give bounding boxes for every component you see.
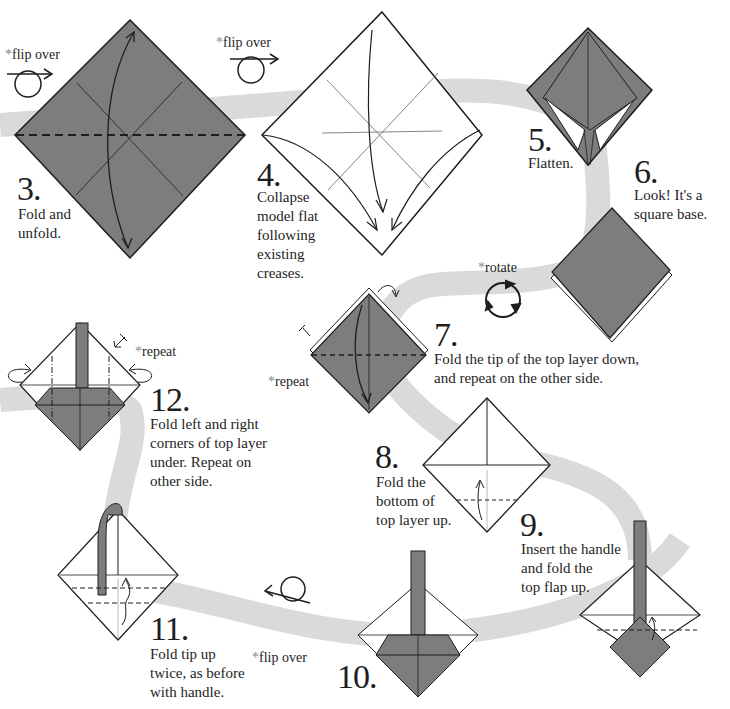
flip-over-icon bbox=[7, 69, 52, 97]
flip-over-note: *flip over bbox=[216, 35, 271, 51]
step-text-line: Look! It's a bbox=[634, 186, 707, 205]
asterisk: * bbox=[216, 35, 223, 50]
step-11-text: Fold tip up twice, as before with handle… bbox=[150, 645, 245, 702]
step-6-model bbox=[551, 208, 672, 342]
step-10-number: 10. bbox=[337, 660, 377, 694]
step-7-text: Fold the tip of the top layer down, and … bbox=[434, 350, 639, 388]
flip-over-note: *flip over bbox=[5, 47, 60, 63]
step-text-line: twice, as before bbox=[150, 664, 245, 683]
step-text-line: top flap up. bbox=[521, 578, 621, 597]
flip-over-label: flip over bbox=[259, 650, 307, 665]
repeat-note: *repeat bbox=[268, 374, 309, 390]
asterisk: * bbox=[268, 374, 275, 389]
rotate-label: rotate bbox=[485, 260, 517, 275]
step-text-line: following bbox=[257, 226, 318, 245]
flip-over-icon bbox=[230, 54, 278, 83]
step-6-number: 6. bbox=[634, 155, 658, 189]
step-text-line: under. Repeat on bbox=[150, 453, 267, 472]
asterisk: * bbox=[252, 650, 259, 665]
repeat-note: *repeat bbox=[135, 344, 176, 360]
flip-over-icon bbox=[265, 577, 310, 603]
step-text-line: top layer up. bbox=[376, 511, 451, 530]
step-text-line: corners of top layer bbox=[150, 434, 267, 453]
step-text-line: model flat bbox=[257, 207, 318, 226]
asterisk: * bbox=[478, 260, 485, 275]
step-text-line: existing bbox=[257, 245, 318, 264]
step-text-line: Collapse bbox=[257, 188, 318, 207]
asterisk: * bbox=[135, 344, 142, 359]
step-4-text: Collapse model flat following existing c… bbox=[257, 188, 318, 283]
step-8-text: Fold the bottom of top layer up. bbox=[376, 473, 451, 530]
flip-over-label: flip over bbox=[223, 35, 271, 50]
step-text-line: Fold left and right bbox=[150, 415, 267, 434]
step-9-number: 9. bbox=[520, 508, 544, 542]
repeat-label: repeat bbox=[142, 344, 176, 359]
step-3-text: Fold and unfold. bbox=[18, 205, 71, 243]
flip-over-note: *flip over bbox=[252, 650, 307, 666]
step-4-number: 4. bbox=[257, 158, 281, 192]
step-text-line: and repeat on the other side. bbox=[434, 369, 639, 388]
step-text-line: with handle. bbox=[150, 683, 245, 702]
step-text-line: unfold. bbox=[18, 224, 71, 243]
step-text-line: square base. bbox=[634, 205, 707, 224]
step-3-number: 3. bbox=[17, 172, 41, 206]
step-5-number: 5. bbox=[528, 123, 552, 157]
repeat-label: repeat bbox=[275, 374, 309, 389]
step-6-text: Look! It's a square base. bbox=[634, 186, 707, 224]
step-text-line: Insert the handle bbox=[521, 540, 621, 559]
step-text-line: other side. bbox=[150, 472, 267, 491]
asterisk: * bbox=[5, 47, 12, 62]
rotate-note: *rotate bbox=[478, 260, 517, 276]
step-5-text: Flatten. bbox=[528, 154, 573, 173]
flip-over-label: flip over bbox=[12, 47, 60, 62]
step-text-line: Fold the tip of the top layer down, bbox=[434, 350, 639, 369]
step-text-line: Flatten. bbox=[528, 154, 573, 173]
step-7-number: 7. bbox=[434, 318, 458, 352]
step-8-number: 8. bbox=[375, 440, 399, 474]
step-text-line: Fold tip up bbox=[150, 645, 245, 664]
step-text-line: creases. bbox=[257, 264, 318, 283]
step-9-text: Insert the handle and fold the top flap … bbox=[521, 540, 621, 597]
step-12-number: 12. bbox=[150, 383, 190, 417]
step-11-number: 11. bbox=[150, 612, 188, 646]
step-text-line: Fold the bbox=[376, 473, 451, 492]
step-text-line: bottom of bbox=[376, 492, 451, 511]
step-text-line: Fold and bbox=[18, 205, 71, 224]
step-12-text: Fold left and right corners of top layer… bbox=[150, 415, 267, 491]
step-text-line: and fold the bbox=[521, 559, 621, 578]
